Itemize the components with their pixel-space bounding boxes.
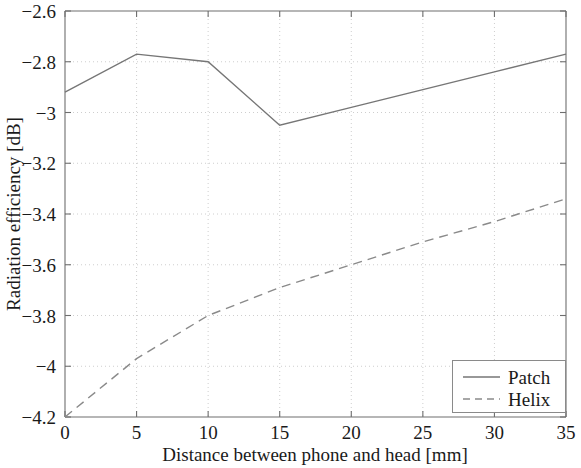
y-tick-label: −3.8 — [22, 306, 56, 327]
y-tick-label: −3 — [36, 103, 56, 124]
figure-canvas: 05101520253035 −2.6−2.8−3−3.2−3.4−3.6−3.… — [0, 0, 581, 468]
y-tick-labels: −2.6−2.8−3−3.2−3.4−3.6−3.8−4−4.2 — [22, 1, 57, 428]
legend-label-helix: Helix — [508, 389, 551, 410]
series-line-patch — [65, 54, 566, 125]
legend-label-patch: Patch — [508, 367, 551, 388]
x-tick-label: 35 — [557, 422, 576, 443]
x-tick-label: 30 — [485, 422, 504, 443]
y-tick-label: −4 — [36, 356, 57, 377]
y-tick-label: −2.8 — [22, 52, 56, 73]
x-tick-label: 15 — [270, 422, 289, 443]
x-tick-label: 20 — [342, 422, 361, 443]
y-tick-label: −3.2 — [22, 153, 56, 174]
x-tick-label: 25 — [413, 422, 432, 443]
x-axis-title: Distance between phone and head [mm] — [162, 444, 467, 465]
x-tick-label: 0 — [60, 422, 70, 443]
y-tick-label: −4.2 — [22, 407, 56, 428]
y-tick-label: −3.4 — [22, 204, 57, 225]
y-axis-title: Radiation efficiency [dB] — [3, 117, 24, 311]
vertical-gridlines — [137, 11, 495, 417]
horizontal-gridlines — [65, 62, 566, 367]
y-tick-label: −2.6 — [22, 1, 56, 22]
x-tick-labels: 05101520253035 — [60, 422, 575, 443]
radiation-efficiency-chart: 05101520253035 −2.6−2.8−3−3.2−3.4−3.6−3.… — [0, 0, 581, 468]
legend[interactable]: Patch Helix — [453, 361, 566, 413]
x-tick-label: 5 — [132, 422, 142, 443]
x-tick-label: 10 — [199, 422, 218, 443]
y-tick-label: −3.6 — [22, 255, 56, 276]
